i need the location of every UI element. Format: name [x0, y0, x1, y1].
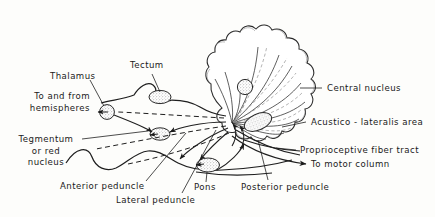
label-to-motor-column: To motor column	[311, 159, 390, 171]
label-central-nucleus: Central nucleus	[327, 83, 401, 95]
label-hemispheres-line1: To and from	[0, 91, 90, 103]
label-tegmentum-line1: Tegmentum	[6, 134, 86, 146]
label-acustico-lateralis-area: Acustico - lateralis area	[311, 117, 423, 129]
central-nucleus	[237, 79, 252, 94]
label-tegmentum-or-red-nucleus: Tegmentum or red nucleus	[6, 134, 86, 169]
leader-thalamus	[90, 80, 104, 106]
label-tectum: Tectum	[130, 60, 164, 72]
leader-anterior-peduncle	[146, 133, 186, 181]
label-posterior-peduncle: Posterior peduncle	[241, 182, 329, 194]
tegmentum-red-nucleus	[150, 128, 170, 140]
label-to-and-from-hemispheres: To and from hemispheres	[0, 91, 90, 114]
label-pons: Pons	[194, 182, 216, 194]
leader-tegmentum	[82, 131, 148, 139]
label-hemispheres-line2: hemispheres	[0, 103, 90, 115]
label-lateral-peduncle: Lateral peduncle	[116, 195, 195, 207]
label-tegmentum-line2: or red	[6, 146, 86, 158]
label-anterior-peduncle: Anterior peduncle	[60, 181, 145, 193]
label-proprioceptive-fiber-tract: Proprioceptive fiber tract	[300, 145, 419, 157]
label-thalamus: Thalamus	[50, 71, 96, 83]
label-tegmentum-line3: nucleus	[6, 157, 86, 169]
tectum-nucleus	[149, 90, 171, 103]
